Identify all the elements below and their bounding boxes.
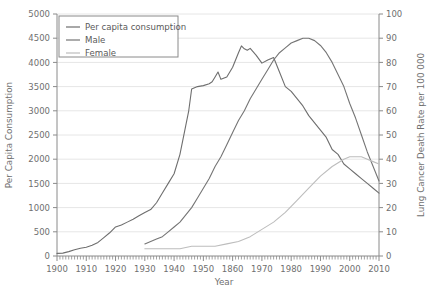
y2-tick-label: 90 (386, 33, 397, 43)
lung-cancer-consumption-chart: 1900191019201930194019501860197019801990… (0, 0, 433, 295)
y-tick-label: 4000 (28, 58, 50, 68)
y2-axis-ticks (379, 14, 383, 256)
series-line-per-capita-consumption (57, 46, 379, 253)
x-tick-label: 2010 (368, 264, 390, 274)
x-tick-label: 1910 (75, 264, 97, 274)
legend-label: Male (85, 35, 105, 45)
x-axis-ticks (57, 256, 379, 261)
x-tick-label: 1860 (222, 264, 244, 274)
x-tick-label: 1980 (280, 264, 302, 274)
x-tick-label: 2000 (339, 264, 361, 274)
x-tick-label: 1970 (251, 264, 273, 274)
y2-tick-label: 70 (386, 82, 397, 92)
y-tick-label: 1500 (28, 179, 50, 189)
legend-label: Female (85, 48, 116, 58)
x-axis-title: Year (214, 277, 234, 287)
series-line-male (145, 38, 379, 244)
x-tick-label: 1950 (193, 264, 215, 274)
y2-tick-label: 60 (386, 106, 397, 116)
data-series-layer (57, 38, 379, 253)
x-tick-label: 1990 (310, 264, 332, 274)
chart-canvas: 1900191019201930194019501860197019801990… (0, 0, 433, 295)
y2-tick-label: 10 (386, 227, 397, 237)
y-tick-label: 2000 (28, 154, 50, 164)
y-axis-title: Per Capita Consumption (4, 82, 14, 188)
x-tick-label: 1940 (163, 264, 185, 274)
y2-tick-label: 0 (386, 251, 391, 261)
x-tick-label: 1930 (134, 264, 156, 274)
y2-axis-tick-labels: 0102030405060708090100 (386, 9, 402, 261)
y-tick-label: 5000 (28, 9, 50, 19)
y-tick-label: 3500 (28, 82, 50, 92)
y2-tick-label: 100 (386, 9, 402, 19)
x-tick-label: 1920 (105, 264, 127, 274)
y-axis-tick-labels: 0500100015002000250030003500400045005000 (28, 9, 50, 261)
series-line-female (145, 157, 379, 249)
y-tick-label: 2500 (28, 130, 50, 140)
y2-tick-label: 40 (386, 154, 397, 164)
y2-tick-label: 50 (386, 130, 397, 140)
y-tick-label: 3000 (28, 106, 50, 116)
y-tick-label: 4500 (28, 33, 50, 43)
legend: Per capita consumptionMaleFemale (59, 16, 186, 58)
y-axis-ticks (53, 14, 57, 256)
y2-tick-label: 30 (386, 179, 397, 189)
y-tick-label: 1000 (28, 203, 50, 213)
x-tick-label: 1900 (46, 264, 68, 274)
y2-tick-label: 80 (386, 58, 397, 68)
y2-axis-title: Lung Cancer Death Rate per 100 000 (416, 53, 426, 218)
y-tick-label: 0 (45, 251, 50, 261)
y2-tick-label: 20 (386, 203, 397, 213)
legend-label: Per capita consumption (85, 22, 186, 32)
x-axis-tick-labels: 1900191019201930194019501860197019801990… (46, 264, 390, 274)
y-tick-label: 500 (34, 227, 50, 237)
